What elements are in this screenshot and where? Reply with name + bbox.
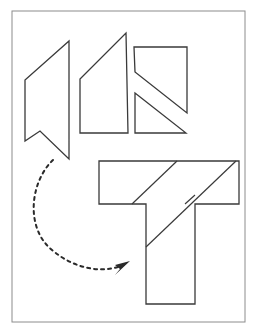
figure-canvas [0,0,256,334]
figure-root [0,0,256,334]
